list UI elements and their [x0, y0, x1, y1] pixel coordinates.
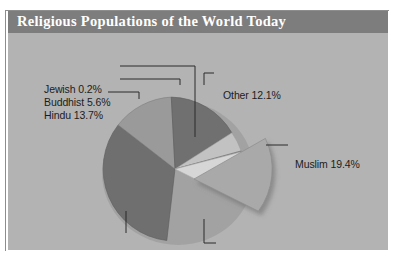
pie-label-buddhist: Buddhist 5.6%	[44, 96, 110, 108]
leader-line-hindu	[108, 92, 139, 99]
pie-label-other: Other 12.1%	[223, 89, 281, 101]
chart-title-bar: Religious Populations of the World Today	[8, 11, 388, 33]
leader-line-other	[204, 73, 214, 85]
pie-label-jewish: Jewish 0.2%	[44, 83, 102, 95]
chart-title: Religious Populations of the World Today	[17, 13, 286, 30]
leader-line-buddhist	[120, 79, 180, 85]
chart-panel: Religious Populations of the World Today	[8, 11, 388, 250]
chart-figure: Religious Populations of the World Today	[0, 0, 399, 264]
pie-label-muslim: Muslim 19.4%	[295, 158, 360, 170]
pie-plot-area: Jewish 0.2% Buddhist 5.6% Hindu 13.7% Ot…	[8, 33, 388, 250]
pie-label-hindu: Hindu 13.7%	[44, 109, 103, 121]
pie-chart-graphic	[8, 33, 388, 250]
